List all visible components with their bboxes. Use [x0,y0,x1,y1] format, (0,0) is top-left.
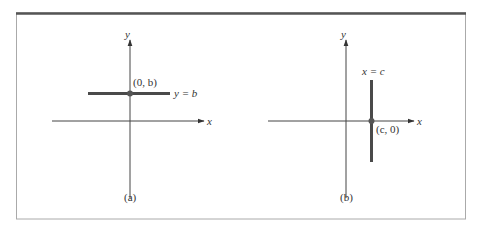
panel-b: y x (c, 0) x = c (b) [268,28,422,204]
point-label: (0, b) [133,76,157,89]
y-axis-label: y [124,28,130,40]
point-0-b [127,91,133,97]
panel-a: y x (0, b) y = b (a) [52,28,212,204]
point-label: (c, 0) [376,123,400,136]
y-axis-label: y [340,28,346,40]
panel-caption: (b) [340,191,353,204]
x-axis-label: x [416,115,422,127]
panel-caption: (a) [124,191,137,204]
line-label: y = b [173,87,198,99]
figure-horizontal-vertical-lines: y x (0, b) y = b (a) y x (c, 0) x = c (b… [0,0,478,227]
x-axis-label: x [206,115,212,127]
line-label: x = c [361,65,385,77]
point-c-0 [369,118,375,124]
figure-frame [17,13,466,219]
